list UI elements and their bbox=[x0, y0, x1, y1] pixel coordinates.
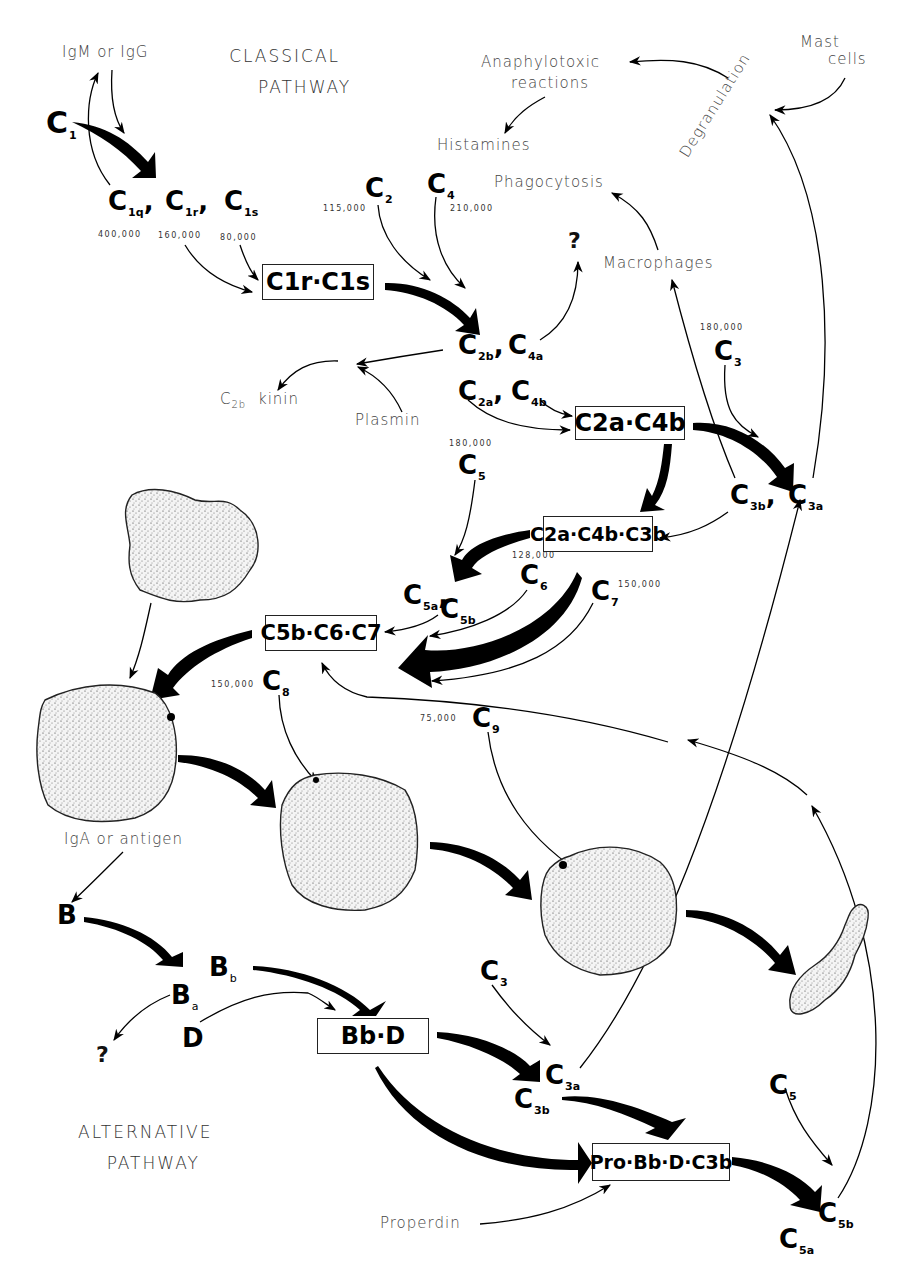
thick-arrow-b-to-bb bbox=[84, 917, 183, 967]
arrow-macrophages-to-phagocytosis bbox=[612, 193, 658, 250]
label-properdin: Properdin bbox=[380, 1216, 461, 1231]
component-alt-c5a: C5a bbox=[779, 1226, 814, 1256]
anaphylotoxic-line1: Anaphylotoxic bbox=[481, 55, 600, 70]
component-d: D bbox=[182, 1025, 204, 1051]
arrow-d-to-bbd bbox=[200, 992, 335, 1022]
arrow-c1s-to-box bbox=[240, 245, 258, 280]
arrow-properdin-to-complex bbox=[480, 1185, 610, 1224]
thick-arrow-cell4-to-cell5 bbox=[686, 910, 796, 975]
mw-c6: 128,000 bbox=[512, 552, 556, 560]
thick-arrow-cell3-to-cell4 bbox=[430, 842, 532, 900]
c8-attachment-dot bbox=[313, 777, 319, 783]
component-c1q: C1q, bbox=[108, 188, 154, 218]
alternative-pathway-title: ALTERNATIVE PATHWAY bbox=[78, 1124, 213, 1172]
mw-c8: 150,000 bbox=[211, 681, 255, 689]
mast-line2: cells bbox=[828, 52, 867, 67]
thick-arrow-pro-to-c5 bbox=[732, 1157, 822, 1212]
mw-c5: 180,000 bbox=[449, 440, 493, 448]
arrow-plasmin-to-split bbox=[358, 367, 402, 412]
arrow-alt-c3-to-c3a bbox=[492, 985, 550, 1045]
arrow-iga-to-b bbox=[72, 852, 123, 902]
cell-c8-bound bbox=[280, 773, 417, 910]
component-alt-c5b: C5b bbox=[818, 1200, 854, 1230]
component-c3b: C3b, bbox=[730, 482, 776, 512]
cell-c567-bound bbox=[37, 685, 176, 822]
mw-c2: 115,000 bbox=[323, 205, 367, 213]
alternative-title-line2: PATHWAY bbox=[94, 1155, 213, 1172]
complex-c1r-c1s-label: C1r·C1s bbox=[266, 268, 370, 296]
component-b: B bbox=[57, 902, 77, 928]
classical-title-line2: PATHWAY bbox=[258, 79, 351, 96]
label-phagocytosis: Phagocytosis bbox=[494, 175, 604, 190]
component-c2: C2 bbox=[365, 175, 393, 205]
complex-c1r-c1s: C1r·C1s bbox=[262, 264, 374, 300]
alternative-title-line1: ALTERNATIVE bbox=[78, 1124, 213, 1141]
arrow-c8-to-cell3 bbox=[279, 695, 317, 782]
component-c8: C8 bbox=[262, 668, 290, 698]
complex-c2a-c4b-c3b: C2a·C4b·C3b bbox=[543, 516, 653, 552]
arrow-c5-to-c5a bbox=[455, 480, 475, 555]
mw-c4: 210,000 bbox=[450, 205, 494, 213]
cell-lysed bbox=[790, 905, 868, 1014]
component-c4: C4 bbox=[427, 171, 455, 201]
arrow-ba-to-question bbox=[114, 995, 170, 1040]
component-c7: C7 bbox=[591, 578, 619, 608]
component-ba: Ba bbox=[171, 982, 199, 1012]
component-c4b: C4b bbox=[511, 378, 547, 408]
component-c1: C1 bbox=[46, 108, 77, 141]
kinin-sub: 2b bbox=[231, 399, 246, 410]
arrow-mast-to-degranulation bbox=[775, 78, 845, 110]
label-histamines: Histamines bbox=[437, 138, 531, 153]
unknown-product-ba: ? bbox=[96, 1044, 109, 1066]
label-c2b-kinin: C2b kinin bbox=[220, 392, 299, 410]
arrow-c2b-to-plasmin bbox=[357, 350, 443, 364]
label-plasmin: Plasmin bbox=[355, 413, 421, 428]
complex-c5b-c6-c7: C5b·C6·C7 bbox=[265, 615, 377, 651]
kinin-word: kinin bbox=[258, 390, 299, 408]
mw-c9: 75,000 bbox=[420, 715, 457, 723]
thick-arrow-bb-to-bbd bbox=[253, 966, 386, 1016]
component-c5: C5 bbox=[458, 452, 486, 482]
component-c3: C3 bbox=[714, 338, 742, 368]
component-alt-c3: C3 bbox=[480, 958, 508, 988]
unknown-product-c4a: ? bbox=[568, 230, 581, 252]
component-alt-c3b: C3b bbox=[514, 1086, 550, 1116]
thick-arrow-c2a4b-to-convertase bbox=[640, 444, 672, 512]
arrow-c3b-to-convertase bbox=[660, 512, 728, 538]
component-c2a: C2a, bbox=[458, 378, 503, 408]
arrow-arc-to-return bbox=[688, 740, 807, 795]
complex-c2a-c4b-label: C2a·C4b bbox=[574, 409, 685, 437]
arrow-igm-to-c1 bbox=[112, 70, 124, 133]
thick-arrow-c1-to-c1q bbox=[72, 122, 156, 178]
thick-arrow-c567-to-cell2 bbox=[150, 630, 252, 700]
arrow-c2-to-c2b bbox=[378, 205, 430, 280]
component-c1r: C1r, bbox=[165, 188, 208, 218]
cell-intact bbox=[126, 490, 258, 602]
anaphylotoxic-line2: reactions bbox=[511, 76, 600, 91]
mw-c1r: 160,000 bbox=[158, 232, 202, 240]
complex-bb-d-label: Bb·D bbox=[341, 1022, 406, 1050]
component-bb: Bb bbox=[209, 954, 237, 984]
mast-line1: Mast bbox=[800, 35, 867, 50]
component-c3a: C3a bbox=[788, 482, 823, 512]
complex-c2a-c4b-c3b-label: C2a·C4b·C3b bbox=[530, 523, 666, 545]
component-alt-c5: C5 bbox=[769, 1072, 797, 1102]
c567-attachment-dot bbox=[167, 713, 175, 721]
complex-pro-bb-d-c3b: Pro·Bb·D·C3b bbox=[592, 1143, 730, 1181]
complex-bb-d: Bb·D bbox=[317, 1018, 429, 1054]
label-macrophages: Macrophages bbox=[603, 256, 714, 271]
arrow-c3b-to-macrophages bbox=[672, 280, 735, 478]
mw-c7: 150,000 bbox=[618, 581, 662, 589]
mw-c1q: 400,000 bbox=[98, 231, 142, 239]
label-mast-cells: Mast cells bbox=[800, 35, 867, 67]
arrow-degranulation-to-anaphylotoxic bbox=[630, 60, 728, 78]
component-alt-c3a: C3a bbox=[545, 1062, 580, 1092]
label-iga-or-antigen: IgA or antigen bbox=[64, 832, 183, 847]
mw-c3: 180,000 bbox=[700, 324, 744, 332]
arrow-cell1-to-cell2 bbox=[130, 603, 151, 678]
component-c5b: C5b bbox=[440, 596, 476, 626]
thick-arrow-bbd-to-c3 bbox=[437, 1032, 540, 1082]
complex-c2a-c4b: C2a·C4b bbox=[575, 406, 685, 440]
arrow-c3a-to-degranulation bbox=[770, 115, 825, 478]
kinin-c: C bbox=[220, 390, 231, 408]
